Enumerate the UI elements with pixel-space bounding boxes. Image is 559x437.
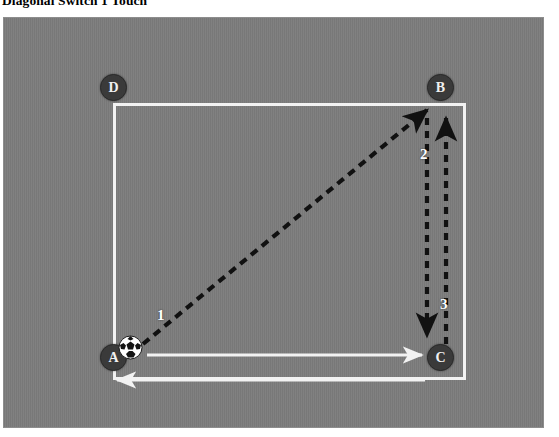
soccer-ball-icon (118, 335, 143, 360)
position-marker-b[interactable]: B (427, 74, 454, 101)
position-marker-d[interactable]: D (100, 74, 127, 101)
movement-label-1: 1 (157, 307, 165, 324)
movement-label-3: 3 (440, 296, 448, 313)
position-marker-c[interactable]: C (427, 344, 454, 371)
page-title: Diagonal Switch 1 Touch (2, 0, 147, 8)
movement-label-2: 2 (420, 146, 428, 163)
drill-field (3, 17, 544, 428)
pitch-rectangle (113, 103, 466, 380)
